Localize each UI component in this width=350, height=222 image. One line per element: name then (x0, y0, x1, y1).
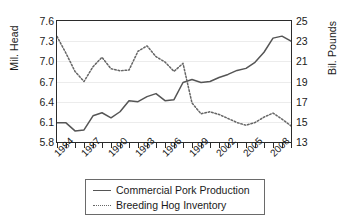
series-lines (57, 21, 291, 142)
x-axis-tick (102, 143, 103, 148)
y-axis-right-tick-label: 13 (296, 137, 322, 147)
y-axis-left-tick-label: 7.3 (28, 36, 54, 46)
y-axis-right-tick-label: 23 (296, 36, 322, 46)
y-axis-left-tick-label: 6.1 (28, 117, 54, 127)
y-axis-right-tick-label: 21 (296, 56, 322, 66)
series-line (57, 36, 291, 125)
x-axis-tick (156, 143, 157, 148)
x-axis-tick (210, 143, 211, 148)
y-axis-right-tick-label: 17 (296, 97, 322, 107)
x-axis-tick (291, 143, 292, 148)
series-line (57, 36, 291, 131)
y-axis-left-tick-label: 5.8 (28, 137, 54, 147)
y-axis-left-tick-label: 6.7 (28, 77, 54, 87)
x-axis-tick (183, 143, 184, 148)
legend-label: Commercial Pork Production (116, 185, 250, 196)
chart-figure: Mil. Head Bil. Pounds 5.86.16.46.77.07.3… (0, 0, 350, 222)
y-axis-left-title: Mil. Head (8, 0, 24, 98)
legend-label: Breeding Hog Inventory (116, 200, 226, 211)
y-axis-left-tick-label: 6.4 (28, 97, 54, 107)
x-axis-tick (75, 143, 76, 148)
solid-line-swatch-icon (92, 186, 112, 196)
y-axis-left-tick-label: 7.0 (28, 56, 54, 66)
x-axis-tick (129, 143, 130, 148)
legend-item-commercial-pork-production: Commercial Pork Production (92, 183, 264, 198)
plot-area (56, 20, 292, 143)
x-axis-tick (264, 143, 265, 148)
y-axis-right-tick-label: 19 (296, 77, 322, 87)
y-axis-right-title: Bil. Pounds (326, 0, 342, 98)
chart-legend: Commercial Pork Production Breeding Hog … (85, 179, 265, 215)
y-axis-right-tick-label: 25 (296, 16, 322, 26)
dotted-line-swatch-icon (92, 201, 112, 211)
legend-item-breeding-hog-inventory: Breeding Hog Inventory (92, 198, 264, 213)
y-axis-left-tick-label: 7.6 (28, 16, 54, 26)
x-axis-tick (237, 143, 238, 148)
y-axis-right-tick-label: 15 (296, 117, 322, 127)
